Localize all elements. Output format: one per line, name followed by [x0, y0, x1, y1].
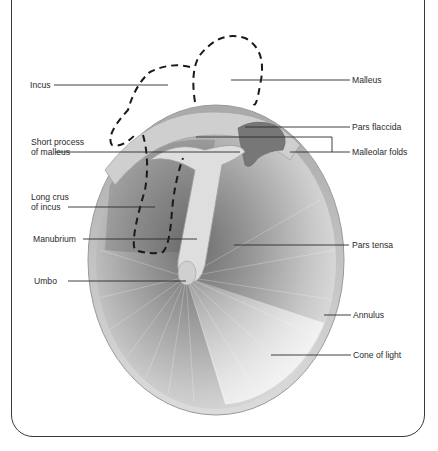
- label-manubrium: Manubrium: [33, 234, 76, 244]
- label-malleus: Malleus: [352, 75, 382, 85]
- label-pars-flaccida: Pars flaccida: [352, 122, 401, 132]
- label-umbo: Umbo: [34, 276, 57, 286]
- label-long-crus-of-incus: Long crus of incus: [31, 192, 69, 212]
- label-long-crus-line2: of incus: [31, 202, 69, 212]
- label-cone-of-light: Cone of light: [353, 350, 401, 360]
- label-short-process-line2: of malleus: [31, 147, 84, 157]
- malleus-outline: [193, 36, 262, 104]
- label-annulus: Annulus: [353, 310, 384, 320]
- label-incus: Incus: [30, 80, 51, 90]
- label-pars-tensa: Pars tensa: [352, 240, 393, 250]
- label-malleolar-folds: Malleolar folds: [352, 147, 407, 157]
- eardrum-illustration: [0, 0, 438, 451]
- label-long-crus-line1: Long crus: [31, 192, 69, 202]
- label-short-process-of-malleus: Short process of malleus: [31, 137, 84, 157]
- label-short-process-line1: Short process: [31, 137, 84, 147]
